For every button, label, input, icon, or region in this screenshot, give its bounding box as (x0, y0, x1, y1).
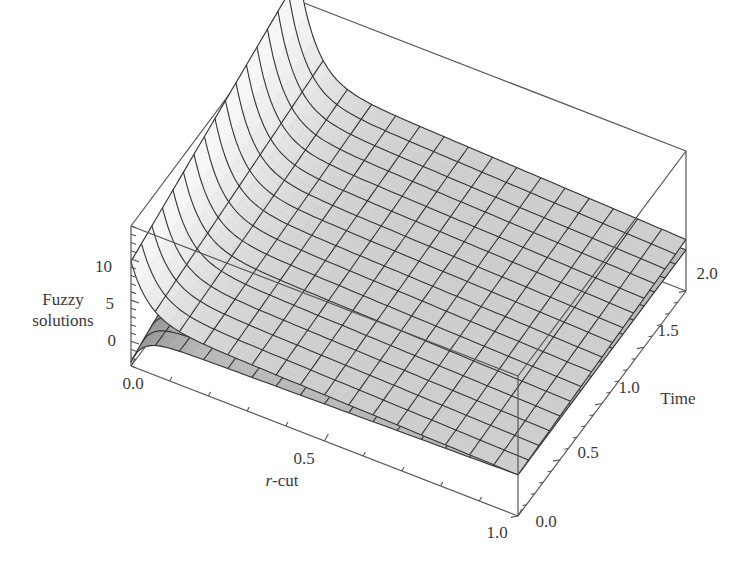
time-axis-tick (573, 437, 577, 438)
t-tick-0: 0.0 (535, 512, 556, 531)
r-axis-tick (479, 497, 481, 501)
z-axis-tick (131, 317, 136, 319)
z-axis-tick (131, 234, 136, 236)
t-tick-0.5: 0.5 (577, 443, 598, 462)
z-axis-tick (131, 308, 136, 310)
time-axis-tick (539, 482, 543, 483)
r-axis-tick (402, 467, 404, 471)
time-axis-tick (522, 505, 526, 506)
r-tick-1: 1.0 (486, 523, 507, 542)
t-tick-1: 1.0 (618, 378, 639, 397)
time-axis-tick (511, 516, 518, 517)
t-tick-1.5: 1.5 (657, 321, 678, 340)
time-axis-tick (648, 336, 652, 337)
z-tick-10: 10 (95, 257, 112, 276)
z-axis-tick (131, 284, 136, 286)
t-tick-2: 2.0 (696, 264, 717, 283)
time-axis-label: Time (660, 389, 695, 408)
time-axis-tick (665, 314, 669, 315)
r-axis-tick (208, 392, 210, 396)
time-axis-tick (564, 449, 568, 450)
r-axis-tick (170, 377, 172, 381)
z-axis-tick (131, 242, 136, 244)
z-axis-tick (131, 292, 136, 294)
time-axis-tick (548, 471, 552, 472)
surface-plot: 10 5 0 Fuzzy solutions 0.0 0.5 1.0 r-cut… (0, 0, 742, 563)
time-axis-tick (590, 415, 594, 416)
z-axis-tick (131, 350, 136, 352)
r-axis-label-suffix: -cut (272, 471, 299, 490)
z-axis-label-line2: solutions (32, 311, 93, 330)
z-axis-tick (131, 251, 136, 253)
z-tick-5: 5 (106, 294, 115, 313)
time-axis-tick (531, 494, 535, 495)
time-axis-tick (632, 359, 636, 360)
r-tick-0: 0.0 (122, 374, 143, 393)
r-axis-label: r-cut (265, 471, 298, 490)
z-axis-tick (131, 333, 136, 335)
time-axis-tick (623, 370, 627, 371)
r-axis-tick (325, 434, 329, 441)
time-axis-tick (581, 426, 585, 427)
z-tick-0: 0 (108, 331, 117, 350)
r-axis-tick (286, 422, 288, 426)
z-axis-tick (131, 325, 136, 327)
time-axis-tick (674, 302, 678, 303)
z-axis-label-line1: Fuzzy (42, 290, 84, 309)
r-axis-tick (247, 407, 249, 411)
z-axis-tick (131, 341, 139, 344)
z-axis-tick (131, 300, 139, 303)
r-axis-tick (441, 482, 443, 486)
r-tick-0.5: 0.5 (293, 449, 314, 468)
r-axis-tick (363, 452, 365, 456)
time-axis-tick (606, 392, 610, 393)
upper-fuzzy-surface (131, 0, 686, 475)
